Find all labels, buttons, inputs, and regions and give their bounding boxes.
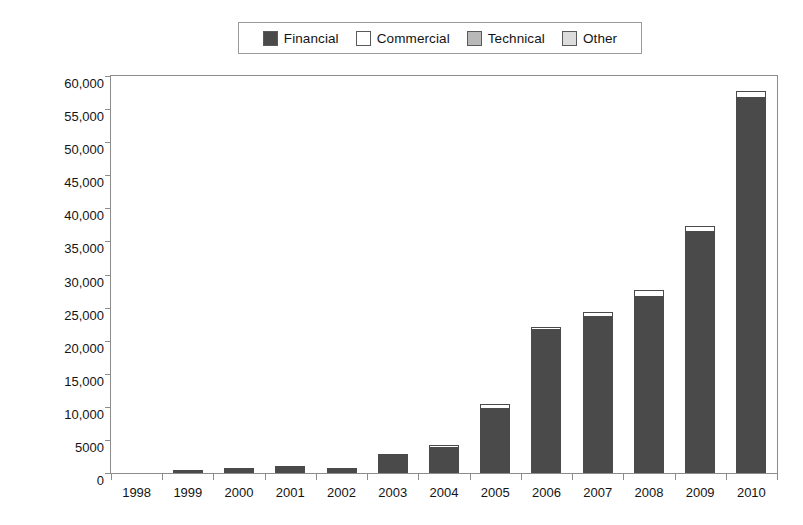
legend-swatch-icon <box>562 31 577 46</box>
y-axis-tick-label: 35,000 <box>64 241 104 256</box>
legend-label: Commercial <box>377 31 450 46</box>
x-axis-tick-mark <box>675 473 676 480</box>
x-axis-tick-label: 2001 <box>276 485 305 500</box>
legend-label: Technical <box>488 31 545 46</box>
x-axis-tick-label: 2004 <box>430 485 459 500</box>
y-axis-tick-label: 60,000 <box>64 76 104 91</box>
y-axis-tick-label: 45,000 <box>64 175 104 190</box>
y-axis-tick-mark <box>105 76 111 77</box>
bar-segment-commercial <box>736 91 766 98</box>
x-axis-tick-label: 2002 <box>327 485 356 500</box>
legend-entry-other[interactable]: Other <box>562 31 617 46</box>
bar-segment-financial <box>634 296 664 473</box>
bar-2009[interactable] <box>685 226 715 473</box>
chart-legend: FinancialCommercialTechnicalOther <box>238 22 642 54</box>
x-axis-tick-label: 2006 <box>532 485 561 500</box>
bar-segment-financial <box>327 468 357 473</box>
bar-segment-financial <box>583 316 613 473</box>
legend-swatch-icon <box>356 31 371 46</box>
bar-segment-financial <box>275 466 305 473</box>
x-axis-tick-mark <box>265 473 266 480</box>
y-axis-tick-mark <box>105 308 111 309</box>
bar-2010[interactable] <box>736 91 766 473</box>
x-axis-tick-label: 2009 <box>686 485 715 500</box>
x-axis-tick-label: 1999 <box>173 485 202 500</box>
y-axis-tick-mark <box>105 341 111 342</box>
y-axis-tick-mark <box>105 275 111 276</box>
x-axis-tick-mark <box>111 473 112 480</box>
legend-entry-commercial[interactable]: Commercial <box>356 31 450 46</box>
x-axis-tick-label: 1998 <box>122 485 151 500</box>
legend-swatch-icon <box>263 31 278 46</box>
bar-2004[interactable] <box>429 445 459 473</box>
y-axis-tick-mark <box>105 142 111 143</box>
bar-2003[interactable] <box>378 454 408 473</box>
y-axis-tick-mark <box>105 175 111 176</box>
y-axis-tick-label: 20,000 <box>64 340 104 355</box>
y-axis-tick-label: 50,000 <box>64 142 104 157</box>
bars-layer <box>111 76 777 473</box>
x-axis-tick-mark <box>367 473 368 480</box>
x-axis-tick-mark <box>777 473 778 480</box>
x-axis-tick-label: 2003 <box>378 485 407 500</box>
x-axis-tick-mark <box>572 473 573 480</box>
y-axis-tick-label: 15,000 <box>64 373 104 388</box>
bar-segment-financial <box>173 470 203 473</box>
bar-2001[interactable] <box>275 466 305 473</box>
bar-segment-financial <box>429 447 459 473</box>
bar-segment-financial <box>736 97 766 473</box>
y-axis-tick-mark <box>105 208 111 209</box>
x-axis-tick-mark <box>418 473 419 480</box>
y-axis-tick-label: 5000 <box>75 439 104 454</box>
plot-area: 0500010,00015,00020,00025,00030,00035,00… <box>110 75 778 474</box>
bar-segment-financial <box>224 468 254 473</box>
bar-2008[interactable] <box>634 290 664 473</box>
x-axis-tick-label: 2007 <box>583 485 612 500</box>
bar-2007[interactable] <box>583 312 613 473</box>
x-axis-tick-mark <box>623 473 624 480</box>
bar-2000[interactable] <box>224 468 254 473</box>
x-axis-tick-label: 2000 <box>225 485 254 500</box>
y-axis-tick-mark <box>105 109 111 110</box>
x-axis-tick-label: 2005 <box>481 485 510 500</box>
bar-2002[interactable] <box>327 468 357 473</box>
bar-2006[interactable] <box>531 327 561 473</box>
legend-entry-technical[interactable]: Technical <box>467 31 545 46</box>
y-axis-tick-label: 25,000 <box>64 307 104 322</box>
x-axis-tick-mark <box>521 473 522 480</box>
bar-segment-financial <box>480 408 510 474</box>
y-axis-tick-mark <box>105 440 111 441</box>
x-axis-tick-mark <box>316 473 317 480</box>
y-axis-tick-mark <box>105 407 111 408</box>
y-axis-tick-label: 55,000 <box>64 109 104 124</box>
y-axis-tick-label: 10,000 <box>64 406 104 421</box>
bar-segment-financial <box>531 329 561 473</box>
legend-swatch-icon <box>467 31 482 46</box>
legend-entry-financial[interactable]: Financial <box>263 31 339 46</box>
x-axis-tick-label: 2008 <box>634 485 663 500</box>
y-axis-tick-mark <box>105 374 111 375</box>
x-axis-tick-mark <box>213 473 214 480</box>
bar-segment-financial <box>685 231 715 473</box>
x-axis-tick-mark <box>162 473 163 480</box>
bar-1999[interactable] <box>173 470 203 473</box>
legend-label: Other <box>583 31 617 46</box>
y-axis-tick-label: 40,000 <box>64 208 104 223</box>
bar-segment-financial <box>378 454 408 473</box>
bar-2005[interactable] <box>480 404 510 473</box>
legend-label: Financial <box>284 31 339 46</box>
y-axis-tick-label: 0 <box>97 473 104 488</box>
x-axis-tick-mark <box>470 473 471 480</box>
x-axis-tick-label: 2010 <box>737 485 766 500</box>
y-axis-tick-mark <box>105 241 111 242</box>
x-axis-tick-mark <box>726 473 727 480</box>
y-axis-tick-label: 30,000 <box>64 274 104 289</box>
